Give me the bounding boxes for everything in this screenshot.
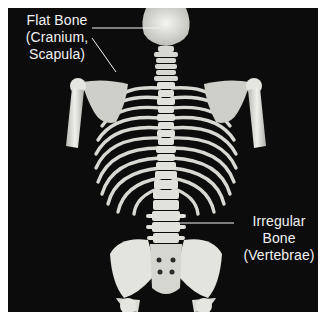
cranium bbox=[142, 8, 189, 46]
flat-bone-label: Flat Bone (Cranium, Scapula) bbox=[16, 12, 98, 63]
humerus-right bbox=[246, 78, 266, 148]
diagram-panel: Flat Bone (Cranium, Scapula) Irregular B… bbox=[8, 8, 318, 312]
irregular-bone-label-line1: Irregular bbox=[241, 213, 317, 230]
irregular-bone-label: Irregular Bone (Vertebrae) bbox=[241, 213, 317, 264]
scapula-right bbox=[204, 80, 250, 122]
flat-bone-label-line1: Flat Bone bbox=[16, 12, 98, 29]
scapula-left bbox=[82, 80, 128, 122]
irregular-bone-label-line2: Bone bbox=[241, 230, 317, 247]
irregular-bone-label-line3: (Vertebrae) bbox=[241, 247, 317, 264]
cervical-spine bbox=[154, 46, 178, 81]
humerus-left bbox=[66, 78, 86, 148]
flat-bone-label-line2: (Cranium, bbox=[16, 29, 98, 46]
flat-bone-label-line3: Scapula) bbox=[16, 46, 98, 63]
pelvis bbox=[110, 239, 222, 312]
